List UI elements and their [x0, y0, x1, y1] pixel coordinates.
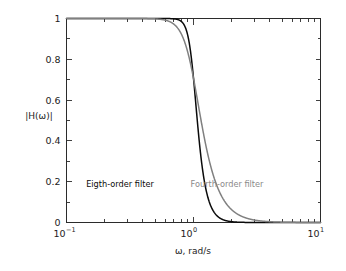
y-tick-label: 0.4 [45, 135, 60, 146]
svg-text:10: 10 [307, 228, 319, 239]
svg-text:1: 1 [320, 226, 324, 234]
butterworth-magnitude-plot: 00.20.40.60.81 10−1100101 Eigth-order fi… [0, 0, 346, 271]
y-tick-label: 0.2 [45, 176, 60, 187]
x-axis-title: ω, rad/s [175, 246, 211, 256]
axis-ticks [67, 19, 321, 223]
svg-text:−1: −1 [66, 226, 76, 234]
data-series-group [67, 19, 321, 223]
x-tick-label: 10−1 [53, 226, 75, 239]
plot-frame [67, 19, 321, 223]
y-tick-label: 0.8 [45, 54, 60, 65]
x-tick-label: 100 [180, 226, 197, 239]
x-axis-tick-labels: 10−1100101 [53, 226, 324, 239]
svg-text:0: 0 [193, 226, 197, 234]
series-annotation-label: Fourth-order filter [191, 179, 265, 189]
y-tick-label: 0 [54, 217, 60, 228]
svg-text:10: 10 [53, 228, 65, 239]
chart-figure: 00.20.40.60.81 10−1100101 Eigth-order fi… [0, 0, 346, 271]
series-annotation-label: Eigth-order filter [86, 179, 154, 189]
x-tick-label: 101 [307, 226, 324, 239]
svg-text:10: 10 [180, 228, 192, 239]
series-annotations: Eigth-order filterFourth-order filter [86, 179, 264, 189]
series-line [67, 19, 321, 223]
y-tick-label: 0.6 [45, 95, 60, 106]
y-axis-title: |H(ω)| [25, 111, 52, 121]
y-tick-label: 1 [54, 13, 60, 24]
series-line [67, 19, 321, 223]
